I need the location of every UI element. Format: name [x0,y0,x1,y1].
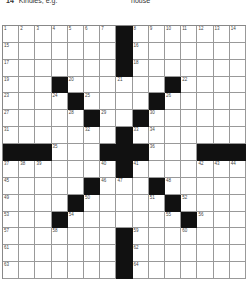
grid-cell[interactable] [52,178,68,195]
grid-cell[interactable] [165,228,181,245]
grid-cell[interactable] [149,212,165,229]
grid-cell[interactable] [35,262,51,279]
grid-cell[interactable] [230,93,246,110]
grid-cell[interactable] [100,195,116,212]
grid-cell[interactable] [100,43,116,60]
grid-cell[interactable] [133,77,149,94]
grid-cell[interactable]: 25 [84,93,100,110]
grid-cell[interactable]: 45 [3,178,19,195]
grid-cell[interactable]: 28 [68,110,84,127]
grid-cell[interactable] [197,110,213,127]
grid-cell[interactable] [116,212,132,229]
grid-cell[interactable]: 35 [52,144,68,161]
grid-cell[interactable] [52,245,68,262]
grid-cell[interactable]: 46 [100,178,116,195]
grid-cell[interactable] [165,161,181,178]
grid-cell[interactable]: 27 [3,110,19,127]
grid-cell[interactable] [214,110,230,127]
grid-cell[interactable] [100,77,116,94]
grid-cell[interactable]: 44 [230,161,246,178]
grid-cell[interactable]: 12 [197,26,213,43]
grid-cell[interactable] [230,228,246,245]
grid-cell[interactable]: 32 [84,127,100,144]
grid-cell[interactable]: 26 [165,93,181,110]
grid-cell[interactable] [84,228,100,245]
grid-cell[interactable]: 40 [100,161,116,178]
grid-cell[interactable] [100,228,116,245]
grid-cell[interactable]: 30 [149,110,165,127]
grid-cell[interactable] [214,77,230,94]
grid-cell[interactable]: 34 [149,127,165,144]
grid-cell[interactable] [230,195,246,212]
grid-cell[interactable] [197,93,213,110]
grid-cell[interactable] [68,144,84,161]
grid-cell[interactable] [214,228,230,245]
grid-cell[interactable] [165,110,181,127]
grid-cell[interactable] [84,262,100,279]
grid-cell[interactable] [214,178,230,195]
grid-cell[interactable] [149,161,165,178]
grid-cell[interactable]: 39 [35,161,51,178]
grid-cell[interactable] [197,127,213,144]
grid-cell[interactable]: 33 [133,127,149,144]
grid-cell[interactable] [181,161,197,178]
grid-cell[interactable]: 64 [133,262,149,279]
grid-cell[interactable]: 51 [149,195,165,212]
grid-cell[interactable] [214,127,230,144]
grid-cell[interactable] [35,245,51,262]
grid-cell[interactable] [19,110,35,127]
grid-cell[interactable] [35,110,51,127]
grid-cell[interactable] [84,43,100,60]
grid-cell[interactable]: 63 [3,262,19,279]
grid-cell[interactable]: 9 [149,26,165,43]
grid-cell[interactable]: 55 [165,212,181,229]
grid-cell[interactable] [19,228,35,245]
grid-cell[interactable] [197,228,213,245]
grid-cell[interactable]: 38 [19,161,35,178]
grid-cell[interactable] [214,43,230,60]
grid-cell[interactable]: 53 [3,212,19,229]
grid-cell[interactable] [35,212,51,229]
grid-cell[interactable]: 59 [133,228,149,245]
grid-cell[interactable] [35,195,51,212]
grid-cell[interactable]: 50 [84,195,100,212]
grid-cell[interactable] [230,262,246,279]
grid-cell[interactable] [197,77,213,94]
grid-cell[interactable] [19,262,35,279]
grid-cell[interactable] [35,77,51,94]
grid-cell[interactable]: 41 [133,161,149,178]
grid-cell[interactable] [35,178,51,195]
grid-cell[interactable] [68,262,84,279]
grid-cell[interactable]: 43 [214,161,230,178]
grid-cell[interactable] [68,60,84,77]
grid-cell[interactable] [84,212,100,229]
grid-cell[interactable]: 1 [3,26,19,43]
grid-cell[interactable] [19,77,35,94]
grid-cell[interactable]: 6 [84,26,100,43]
grid-cell[interactable]: 4 [52,26,68,43]
grid-cell[interactable] [181,43,197,60]
grid-cell[interactable] [68,178,84,195]
grid-cell[interactable] [35,93,51,110]
grid-cell[interactable] [165,262,181,279]
grid-cell[interactable] [149,245,165,262]
grid-cell[interactable] [52,43,68,60]
grid-cell[interactable] [84,144,100,161]
grid-cell[interactable] [68,43,84,60]
grid-cell[interactable] [165,127,181,144]
grid-cell[interactable]: 24 [52,93,68,110]
grid-cell[interactable] [19,195,35,212]
grid-cell[interactable] [19,178,35,195]
grid-cell[interactable] [100,60,116,77]
grid-cell[interactable] [230,43,246,60]
grid-cell[interactable] [197,178,213,195]
grid-cell[interactable]: 13 [214,26,230,43]
grid-cell[interactable] [68,228,84,245]
grid-cell[interactable]: 57 [3,228,19,245]
grid-cell[interactable] [100,93,116,110]
grid-cell[interactable] [181,262,197,279]
grid-cell[interactable] [19,43,35,60]
grid-cell[interactable] [133,93,149,110]
grid-cell[interactable] [181,93,197,110]
grid-cell[interactable] [197,262,213,279]
